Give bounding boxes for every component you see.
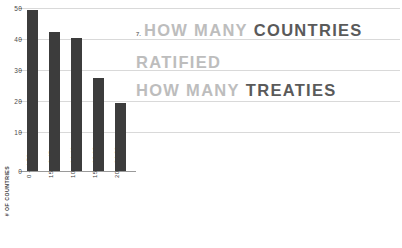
x-tick-label-2: 10 – 14 43: [70, 126, 76, 178]
chart-headline: 7.HOW MANY COUNTRIES RATIFIED HOW MANY T…: [136, 16, 402, 104]
x-tick-label-0: 0 – 4 52: [26, 126, 32, 178]
x-tick-label-1: 15 – 9 45: [48, 126, 54, 178]
headline-line-3: HOW MANY TREATIES: [136, 76, 402, 104]
headline-line-2: RATIFIED: [136, 48, 402, 76]
x-tick-label-4: 20 – 24 22: [114, 126, 120, 178]
headline-line-2-light: RATIFIED: [136, 53, 221, 71]
headline-line-3-strong: TREATIES: [246, 81, 337, 99]
x-tick-label-3: 15 – 19 30: [92, 126, 98, 178]
chart-figure: 50 40 30 20 10 0 # OF COUNTRIES 0 – 4 52…: [0, 0, 402, 248]
headline-number: 7.: [136, 31, 141, 37]
headline-line-1: 7.HOW MANY COUNTRIES: [136, 16, 402, 48]
headline-line-3-light: HOW MANY: [136, 81, 240, 99]
headline-line-1-light: HOW MANY: [144, 21, 248, 39]
headline-line-1-strong: COUNTRIES: [254, 21, 363, 39]
